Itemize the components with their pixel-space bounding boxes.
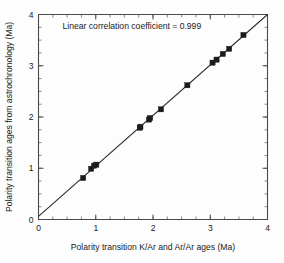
scatter-plot: 01234 01234 Polarity transition K/Ar and… (0, 0, 284, 263)
y-tick-label: 2 (29, 112, 34, 122)
y-axis-title: Polarity transition ages from astrochron… (4, 22, 14, 212)
data-point (158, 107, 163, 112)
y-tick-label: 1 (29, 163, 34, 173)
data-point (214, 57, 219, 62)
x-tick-label: 1 (93, 223, 98, 233)
data-point (81, 175, 86, 180)
data-point (220, 51, 225, 56)
x-tick-label: 4 (265, 223, 270, 233)
data-point (227, 46, 232, 51)
y-tick-label: 0 (29, 215, 34, 225)
y-axis-tick-labels: 01234 (29, 10, 34, 225)
correlation-coefficient-annotation: Linear correlation coefficient = 0.999 (63, 21, 202, 31)
y-tick-label: 4 (29, 10, 34, 20)
x-tick-label: 0 (36, 223, 41, 233)
data-point (94, 162, 99, 167)
x-tick-label: 3 (208, 223, 213, 233)
data-point (185, 83, 190, 88)
data-point (138, 124, 143, 129)
data-point (148, 115, 153, 120)
x-axis-title: Polarity transition K/Ar and Ar/Ar ages … (71, 242, 235, 252)
x-axis-tick-labels: 01234 (36, 223, 270, 233)
correlation-line (39, 15, 268, 217)
y-tick-label: 3 (29, 61, 34, 71)
x-tick-label: 2 (151, 223, 156, 233)
data-point (241, 32, 246, 37)
chart-figure: 01234 01234 Polarity transition K/Ar and… (0, 0, 284, 263)
